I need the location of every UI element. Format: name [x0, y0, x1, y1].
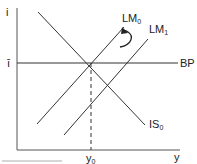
lm0-label: LM0 — [122, 12, 141, 25]
is-lm-bp-diagram: i ī y y0 LM0 LM1 IS0 BP — [0, 0, 197, 164]
bp-label: BP — [180, 57, 195, 69]
y-axis-label: i — [6, 6, 8, 18]
y-tick-label: ī — [7, 57, 11, 69]
lm1-label: LM1 — [149, 23, 168, 36]
is0-label: IS0 — [149, 118, 163, 131]
lm0-curve — [37, 27, 124, 124]
x-tick-label: y0 — [86, 152, 96, 164]
x-axis-label: y — [174, 151, 180, 163]
cropped-caption — [2, 158, 62, 164]
arrowhead-icon — [121, 27, 128, 34]
